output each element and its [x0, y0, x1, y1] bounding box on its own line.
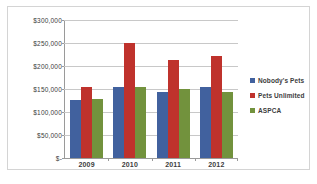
value-axis-tick-label: $50,000 — [10, 132, 62, 139]
bar[interactable] — [81, 87, 92, 158]
bar-group-2009 — [65, 20, 108, 158]
bar[interactable] — [124, 43, 135, 158]
bar[interactable] — [113, 87, 124, 158]
category-axis-tick-label: 2010 — [108, 161, 151, 168]
chart-container: $300,000$250,000$200,000$150,000$100,000… — [7, 6, 310, 170]
bar-group-2011 — [152, 20, 195, 158]
value-axis-tick-label: $100,000 — [10, 109, 62, 116]
legend-swatch-icon — [250, 78, 255, 83]
legend-item-label: Nobody's Pets — [258, 77, 304, 84]
bar-group-2010 — [108, 20, 151, 158]
bar-groups — [65, 20, 238, 158]
bar[interactable] — [179, 89, 190, 158]
category-axis-tick-label: 2012 — [195, 161, 238, 168]
legend-item-label: Pets Unlimited — [258, 92, 305, 99]
bar[interactable] — [157, 92, 168, 158]
category-axis-tick-label: 2011 — [152, 161, 195, 168]
value-axis-tick-label: $- — [10, 155, 62, 162]
bar-group-2012 — [195, 20, 238, 158]
legend-item[interactable]: ASPCA — [250, 103, 317, 118]
value-axis-tick-label: $300,000 — [10, 17, 62, 24]
value-axis-tick-label: $200,000 — [10, 63, 62, 70]
chart-legend: Nobody's PetsPets UnlimitedASPCA — [250, 73, 317, 118]
legend-swatch-icon — [250, 108, 255, 113]
value-axis-labels: $300,000$250,000$200,000$150,000$100,000… — [8, 20, 62, 158]
bar[interactable] — [211, 56, 222, 158]
legend-item[interactable]: Pets Unlimited — [250, 88, 317, 103]
value-axis-tick-label: $150,000 — [10, 86, 62, 93]
bar[interactable] — [200, 87, 211, 158]
legend-item[interactable]: Nobody's Pets — [250, 73, 317, 88]
bar[interactable] — [222, 92, 233, 158]
value-axis-tick-label: $250,000 — [10, 40, 62, 47]
legend-item-label: ASPCA — [258, 107, 281, 114]
category-axis-labels: 2009201020112012 — [65, 161, 238, 168]
bar[interactable] — [70, 100, 81, 158]
category-axis-tick-label: 2009 — [65, 161, 108, 168]
bar[interactable] — [135, 87, 146, 158]
bar[interactable] — [92, 99, 103, 158]
bar[interactable] — [168, 60, 179, 158]
legend-swatch-icon — [250, 93, 255, 98]
